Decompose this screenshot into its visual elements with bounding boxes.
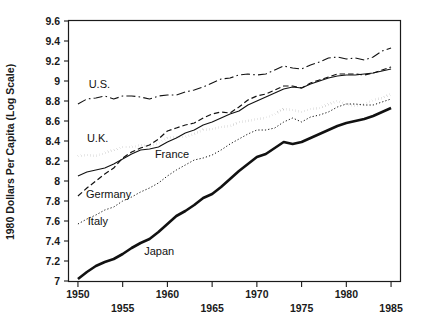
y-tick-label: 9.2	[45, 55, 60, 67]
x-tick-label: 1985	[379, 302, 403, 314]
y-tick-label: 9.6	[45, 15, 60, 27]
y-tick-label: 7.6	[45, 215, 60, 227]
x-tick-label: 1965	[200, 302, 224, 314]
chart-container: 1980 Dollars Per Capita (Log Scale) 77.2…	[0, 0, 435, 323]
series-label-italy: Italy	[88, 215, 109, 227]
y-tick-label: 8	[54, 175, 60, 187]
series-label-france: France	[155, 148, 189, 160]
series-label-germany: Germany	[86, 188, 132, 200]
line-chart: 1980 Dollars Per Capita (Log Scale) 77.2…	[0, 0, 435, 323]
series-label-japan: Japan	[144, 245, 174, 257]
series-label-us: U.S.	[89, 78, 110, 90]
x-tick-label: 1975	[290, 302, 314, 314]
y-tick-label: 8.4	[45, 135, 60, 147]
x-tick-label: 1980	[335, 288, 359, 300]
x-tick-label: 1950	[66, 288, 90, 300]
y-axis-title: 1980 Dollars Per Capita (Log Scale)	[4, 64, 16, 240]
x-tick-label: 1970	[245, 288, 269, 300]
y-tick-label: 7.4	[45, 235, 60, 247]
y-tick-label: 9	[54, 75, 60, 87]
y-tick-label: 8.2	[45, 155, 60, 167]
x-tick-label: 1955	[111, 302, 135, 314]
series-label-uk: U.K.	[87, 132, 108, 144]
y-tick-label: 9.4	[45, 35, 60, 47]
y-tick-label: 8.8	[45, 95, 60, 107]
y-tick-label: 7.2	[45, 255, 60, 267]
y-tick-label: 8.6	[45, 115, 60, 127]
y-tick-label: 7	[54, 275, 60, 287]
x-tick-label: 1960	[156, 288, 180, 300]
y-tick-label: 7.8	[45, 195, 60, 207]
